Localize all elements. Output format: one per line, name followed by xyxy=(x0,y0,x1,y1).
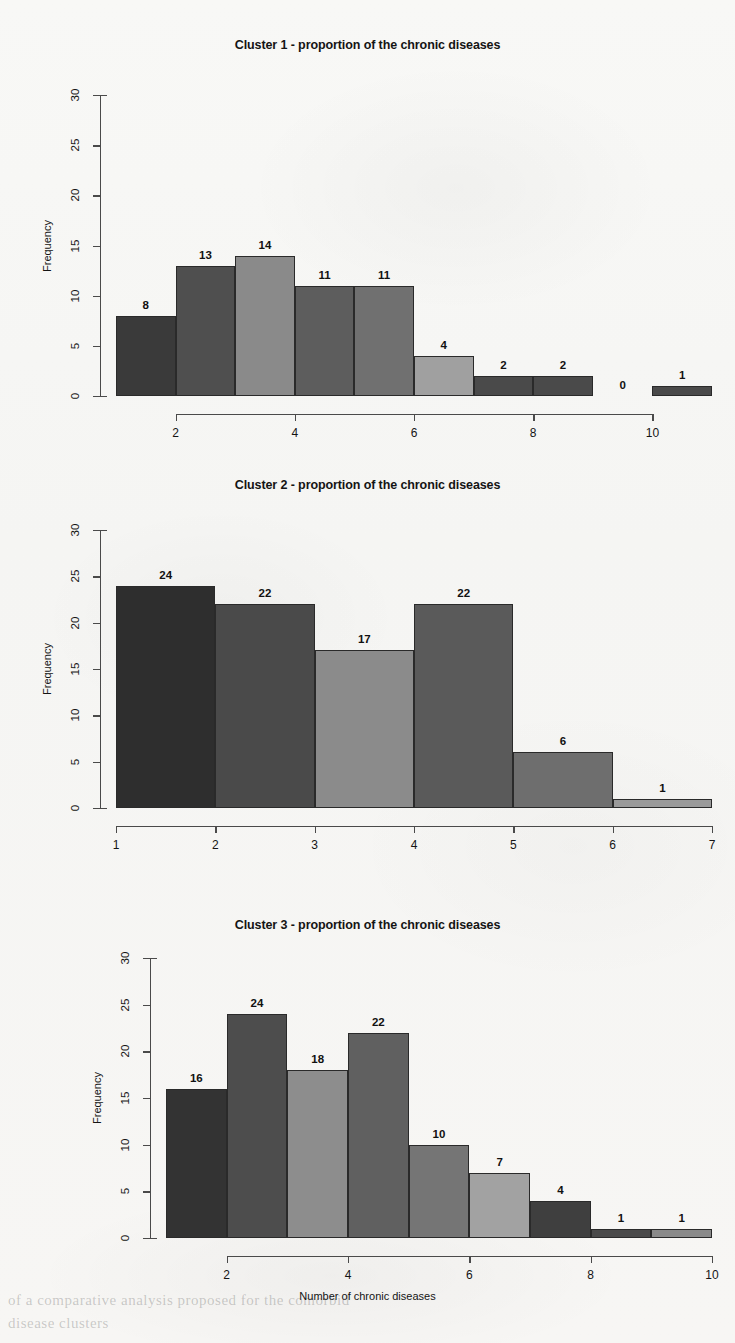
x-axis-tick-label: 2 xyxy=(156,426,196,440)
x-axis-tick xyxy=(348,1256,349,1263)
y-axis-tick-label: 25 xyxy=(117,990,133,1020)
histogram-bar xyxy=(348,1033,409,1238)
x-axis-tick-label: 6 xyxy=(593,838,633,852)
x-axis-tick xyxy=(591,1256,592,1263)
bar-value-label: 24 xyxy=(237,997,277,1009)
x-axis-tick xyxy=(613,826,614,833)
y-axis-tick xyxy=(93,762,100,763)
x-axis-tick xyxy=(652,414,653,421)
y-axis-tick-label: 10 xyxy=(67,281,83,311)
bar-value-label: 7 xyxy=(480,1156,520,1168)
histogram-bar xyxy=(295,286,355,396)
y-axis-tick-label: 25 xyxy=(67,130,83,160)
x-axis-tick xyxy=(315,826,316,833)
x-axis-tick xyxy=(712,826,713,833)
y-axis-tick-label: 30 xyxy=(67,80,83,110)
bar-value-label: 17 xyxy=(344,633,384,645)
y-axis-tick xyxy=(143,1051,150,1052)
x-axis-tick xyxy=(469,1256,470,1263)
bar-value-label: 18 xyxy=(298,1053,338,1065)
plot-area: 051015202530Frequency8131411114220124681… xyxy=(0,0,735,450)
y-axis-line xyxy=(100,95,101,396)
x-axis-tick-label: 4 xyxy=(275,426,315,440)
y-axis-tick xyxy=(143,1098,150,1099)
bar-value-label: 22 xyxy=(444,587,484,599)
y-axis-tick-label: 20 xyxy=(67,608,83,638)
bar-value-label: 8 xyxy=(126,299,166,311)
y-axis-endcap xyxy=(100,530,107,531)
histogram-bar xyxy=(613,799,712,808)
x-axis-tick-label: 6 xyxy=(449,1268,489,1282)
chart-panel-cluster-2: Cluster 2 - proportion of the chronic di… xyxy=(0,450,735,900)
histogram-bar xyxy=(215,604,314,808)
histogram-bar xyxy=(409,1145,470,1238)
bar-value-label: 2 xyxy=(543,359,583,371)
histogram-bar xyxy=(227,1014,288,1238)
y-axis-tick xyxy=(143,1005,150,1006)
bar-value-label: 2 xyxy=(483,359,523,371)
bar-value-label: 1 xyxy=(662,369,702,381)
y-axis-tick xyxy=(93,576,100,577)
y-axis-tick-label: 5 xyxy=(67,331,83,361)
y-axis-tick-label: 30 xyxy=(117,943,133,973)
y-axis-tick-label: 10 xyxy=(117,1130,133,1160)
y-axis-endcap xyxy=(150,1238,157,1239)
histogram-bar xyxy=(287,1070,348,1238)
x-axis-tick xyxy=(116,826,117,833)
y-axis-title: Frequency xyxy=(89,1058,105,1138)
y-axis-tick xyxy=(93,715,100,716)
y-axis-endcap xyxy=(100,808,107,809)
bar-value-label: 22 xyxy=(358,1016,398,1028)
bar-value-label: 16 xyxy=(176,1072,216,1084)
histogram-bar xyxy=(591,1229,652,1238)
histogram-bar xyxy=(354,286,414,396)
histogram-bar xyxy=(474,376,534,396)
bar-value-label: 4 xyxy=(424,339,464,351)
x-axis-tick-label: 4 xyxy=(328,1268,368,1282)
histogram-bar xyxy=(116,586,215,808)
y-axis-tick-label: 15 xyxy=(67,231,83,261)
x-axis-tick-label: 1 xyxy=(96,838,136,852)
bar-value-label: 1 xyxy=(601,1212,641,1224)
histogram-bar xyxy=(513,752,612,808)
x-axis-tick xyxy=(176,414,177,421)
y-axis-endcap xyxy=(100,396,107,397)
x-axis-tick-label: 8 xyxy=(571,1268,611,1282)
x-axis-tick-label: 6 xyxy=(394,426,434,440)
y-axis-tick xyxy=(143,1238,150,1239)
bar-value-label: 0 xyxy=(603,379,643,391)
x-axis-tick-label: 10 xyxy=(632,426,672,440)
histogram-bar xyxy=(533,376,593,396)
y-axis-tick-label: 10 xyxy=(67,700,83,730)
chart-panel-cluster-3: Cluster 3 - proportion of the chronic di… xyxy=(0,890,735,1343)
plot-area: 051015202530Frequency24221722611234567 xyxy=(0,450,735,900)
y-axis-tick-label: 5 xyxy=(117,1176,133,1206)
x-axis-tick-label: 7 xyxy=(692,838,732,852)
y-axis-tick xyxy=(93,808,100,809)
y-axis-tick-label: 15 xyxy=(67,654,83,684)
x-axis-title: Number of chronic diseases xyxy=(0,1290,735,1302)
y-axis-endcap xyxy=(150,958,157,959)
y-axis-tick xyxy=(143,958,150,959)
histogram-bar xyxy=(116,316,176,396)
x-axis-tick xyxy=(215,826,216,833)
x-axis-tick-label: 3 xyxy=(295,838,335,852)
histogram-bar xyxy=(315,650,414,808)
y-axis-tick-label: 20 xyxy=(67,180,83,210)
bar-value-label: 10 xyxy=(419,1128,459,1140)
histogram-bar xyxy=(414,604,513,808)
y-axis-tick xyxy=(93,530,100,531)
plot-area: 051015202530Frequency1624182210741124681… xyxy=(0,890,735,1343)
histogram-bar xyxy=(652,386,712,396)
histogram-bar xyxy=(530,1201,591,1238)
histogram-bar xyxy=(235,256,295,396)
y-axis-tick xyxy=(93,246,100,247)
histogram-bar xyxy=(469,1173,530,1238)
y-axis-tick xyxy=(93,296,100,297)
bar-value-label: 1 xyxy=(662,1212,702,1224)
x-axis-tick xyxy=(513,826,514,833)
y-axis-endcap xyxy=(100,95,107,96)
y-axis-line xyxy=(150,958,151,1238)
y-axis-tick-label: 0 xyxy=(117,1223,133,1253)
bar-value-label: 24 xyxy=(146,569,186,581)
